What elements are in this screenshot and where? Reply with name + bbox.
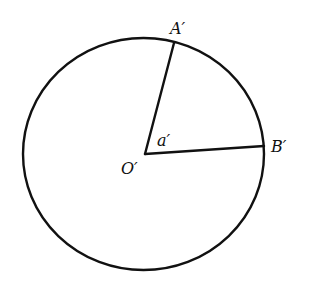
- circle: [23, 38, 264, 270]
- label-center-o: O′: [121, 159, 138, 178]
- circle-diagram: A′ B′ O′ a′: [0, 0, 310, 285]
- label-point-b: B′: [270, 137, 287, 156]
- label-angle-a: a′: [157, 131, 171, 150]
- label-point-a: A′: [168, 19, 186, 38]
